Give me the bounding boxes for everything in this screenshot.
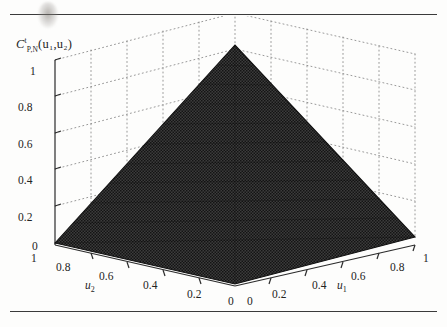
z-axis-label: CtP,N(u₁,u₂) bbox=[16, 36, 72, 54]
u1-tick-0-2: 0.2 bbox=[272, 288, 286, 300]
u1-tick-0-4: 0.4 bbox=[312, 279, 326, 291]
u2-tick-0-8: 0.8 bbox=[56, 261, 70, 273]
u1-tick-0: 0 bbox=[247, 295, 253, 307]
u2-tick-0: 0 bbox=[228, 295, 234, 307]
u1-tick-0-6: 0.6 bbox=[351, 270, 365, 282]
u1-axis-label-subscript: 1 bbox=[343, 285, 347, 294]
z-axis-label-args: (u₁,u₂) bbox=[38, 37, 72, 51]
u2-tick-1: 1 bbox=[31, 252, 37, 264]
bottom-rule bbox=[10, 311, 437, 312]
z-axis bbox=[55, 58, 61, 245]
z-axis-label-base: C bbox=[16, 37, 25, 51]
u1-tick-1: 1 bbox=[423, 252, 429, 264]
z-tick-0-6: 0.6 bbox=[18, 138, 32, 150]
z-tick-1: 1 bbox=[30, 65, 36, 77]
u2-axis-label: u2 bbox=[85, 279, 95, 294]
figure-panel: CtP,N(u₁,u₂) 1 0.8 0.6 0.4 0.2 0 1 0.8 0… bbox=[0, 0, 447, 327]
z-tick-0-2: 0.2 bbox=[18, 211, 32, 223]
u2-tick-0-6: 0.6 bbox=[99, 270, 113, 282]
z-axis-label-superscript: t bbox=[25, 36, 27, 45]
u2-tick-0-2: 0.2 bbox=[187, 288, 201, 300]
z-tick-0-8: 0.8 bbox=[18, 101, 32, 113]
top-rule bbox=[10, 14, 437, 15]
u2-axis-label-subscript: 2 bbox=[91, 285, 95, 294]
u1-tick-0-8: 0.8 bbox=[390, 261, 404, 273]
z-tick-0-4: 0.4 bbox=[18, 174, 32, 186]
z-axis-label-subscript: P,N bbox=[27, 45, 38, 54]
mesh-surface bbox=[55, 45, 415, 284]
u2-tick-0-4: 0.4 bbox=[143, 279, 157, 291]
z-tick-0: 0 bbox=[32, 240, 38, 252]
u1-axis-label: u1 bbox=[337, 279, 347, 294]
